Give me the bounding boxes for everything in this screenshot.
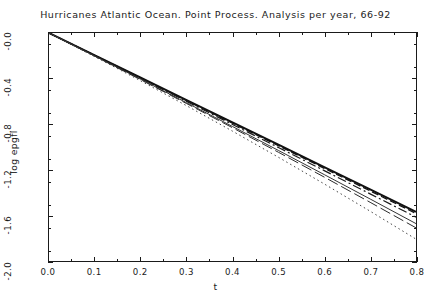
- series-line: [49, 33, 416, 228]
- y-tick-mark: [48, 67, 51, 68]
- y-tick-mark: [414, 251, 417, 252]
- y-tick-mark: [412, 32, 417, 33]
- series-line: [49, 33, 416, 224]
- y-tick-mark: [414, 113, 417, 114]
- y-tick-mark: [48, 90, 51, 91]
- y-tick-mark: [48, 251, 51, 252]
- y-tick-label: -0.4: [3, 78, 13, 96]
- x-tick-mark: [163, 32, 164, 35]
- x-tick-label: 0.4: [225, 267, 240, 277]
- y-tick-mark: [414, 159, 417, 160]
- y-tick-mark: [48, 136, 51, 137]
- y-tick-mark: [48, 205, 51, 206]
- y-tick-label: -1.2: [3, 170, 13, 188]
- y-tick-mark: [414, 182, 417, 183]
- series-line: [49, 33, 416, 213]
- x-tick-mark: [279, 32, 280, 37]
- x-tick-mark: [94, 257, 95, 262]
- y-tick-mark: [414, 44, 417, 45]
- y-tick-mark: [48, 170, 53, 171]
- x-tick-mark: [302, 32, 303, 35]
- y-tick-mark: [414, 205, 417, 206]
- x-tick-mark: [233, 32, 234, 37]
- x-tick-mark: [186, 32, 187, 37]
- x-tick-mark: [371, 257, 372, 262]
- y-tick-label: -0.8: [3, 124, 13, 142]
- x-tick-mark: [186, 257, 187, 262]
- y-tick-mark: [48, 262, 53, 263]
- y-tick-mark: [412, 262, 417, 263]
- x-tick-label: 0.2: [133, 267, 148, 277]
- series-line: [49, 33, 416, 239]
- x-tick-label: 0.5: [271, 267, 286, 277]
- x-tick-label: 0.0: [41, 267, 56, 277]
- x-tick-mark: [279, 257, 280, 262]
- x-tick-label: 0.6: [317, 267, 332, 277]
- x-tick-mark: [233, 257, 234, 262]
- x-tick-mark: [417, 32, 418, 37]
- x-tick-mark: [209, 259, 210, 262]
- x-tick-mark: [209, 32, 210, 35]
- x-tick-mark: [394, 259, 395, 262]
- y-tick-mark: [48, 78, 53, 79]
- y-tick-label: -0.0: [3, 32, 13, 50]
- y-tick-label: -2.0: [3, 262, 13, 280]
- x-tick-mark: [71, 259, 72, 262]
- x-tick-label: 0.7: [363, 267, 378, 277]
- x-tick-label: 0.8: [410, 267, 425, 277]
- x-tick-mark: [163, 259, 164, 262]
- plot-lines: [49, 33, 416, 261]
- y-tick-mark: [48, 113, 51, 114]
- y-tick-mark: [414, 67, 417, 68]
- x-tick-mark: [325, 257, 326, 262]
- x-tick-mark: [302, 259, 303, 262]
- x-tick-mark: [325, 32, 326, 37]
- chart-title: Hurricanes Atlantic Ocean. Point Process…: [0, 9, 431, 20]
- y-tick-mark: [412, 78, 417, 79]
- x-tick-mark: [140, 32, 141, 37]
- x-tick-label: 0.1: [87, 267, 102, 277]
- plot-area: [48, 32, 417, 262]
- x-axis-title: t: [0, 281, 431, 292]
- y-tick-mark: [48, 228, 51, 229]
- x-tick-mark: [394, 32, 395, 35]
- y-tick-mark: [48, 124, 53, 125]
- x-tick-mark: [256, 259, 257, 262]
- x-tick-mark: [117, 32, 118, 35]
- x-tick-mark: [71, 32, 72, 35]
- y-tick-mark: [414, 90, 417, 91]
- y-tick-label: -1.6: [3, 216, 13, 234]
- y-tick-mark: [412, 216, 417, 217]
- y-tick-mark: [414, 228, 417, 229]
- x-tick-label: 0.3: [179, 267, 194, 277]
- x-tick-mark: [348, 259, 349, 262]
- y-tick-mark: [412, 124, 417, 125]
- x-tick-mark: [94, 32, 95, 37]
- y-tick-mark: [48, 182, 51, 183]
- y-tick-mark: [414, 136, 417, 137]
- chart-figure: Hurricanes Atlantic Ocean. Point Process…: [0, 0, 431, 303]
- x-tick-mark: [256, 32, 257, 35]
- y-tick-mark: [48, 44, 51, 45]
- x-tick-mark: [117, 259, 118, 262]
- x-tick-mark: [140, 257, 141, 262]
- x-tick-mark: [371, 32, 372, 37]
- y-tick-mark: [48, 32, 53, 33]
- x-tick-mark: [348, 32, 349, 35]
- y-tick-mark: [48, 216, 53, 217]
- y-tick-mark: [48, 159, 51, 160]
- x-tick-mark: [417, 257, 418, 262]
- y-tick-mark: [412, 170, 417, 171]
